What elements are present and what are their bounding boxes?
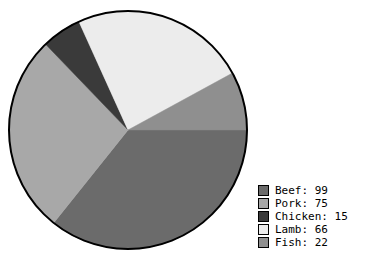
legend-swatch-chicken <box>258 211 269 222</box>
legend-label-beef: Beef: 99 <box>275 184 328 197</box>
legend-swatch-beef <box>258 185 269 196</box>
legend-label-lamb: Lamb: 66 <box>275 223 328 236</box>
pie-slices-group <box>9 11 247 249</box>
legend-item-fish[interactable]: Fish: 22 <box>258 236 348 249</box>
legend-label-chicken: Chicken: 15 <box>275 210 348 223</box>
legend-item-chicken[interactable]: Chicken: 15 <box>258 210 348 223</box>
legend-swatch-fish <box>258 237 269 248</box>
pie-svg <box>0 0 260 263</box>
pie-plot-area <box>0 0 260 263</box>
legend-item-lamb[interactable]: Lamb: 66 <box>258 223 348 236</box>
chart-legend: Beef: 99 Pork: 75 Chicken: 15 Lamb: 66 F… <box>258 184 348 249</box>
legend-swatch-lamb <box>258 224 269 235</box>
legend-item-beef[interactable]: Beef: 99 <box>258 184 348 197</box>
legend-swatch-pork <box>258 198 269 209</box>
legend-label-pork: Pork: 75 <box>275 197 328 210</box>
legend-label-fish: Fish: 22 <box>275 236 328 249</box>
pie-chart-figure: Beef: 99 Pork: 75 Chicken: 15 Lamb: 66 F… <box>0 0 381 263</box>
legend-item-pork[interactable]: Pork: 75 <box>258 197 348 210</box>
